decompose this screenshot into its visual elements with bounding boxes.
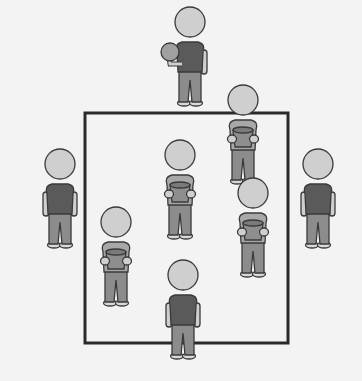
player-outside-right [301, 149, 335, 248]
shirt-icon [304, 184, 332, 214]
head-icon [45, 149, 75, 179]
pants-icon [179, 70, 201, 102]
pants-icon [169, 203, 191, 235]
player-inside-center [165, 140, 196, 239]
pants-icon [49, 212, 71, 244]
head-icon [101, 207, 131, 237]
bucket-rim-icon [233, 127, 253, 133]
player-inside-top-right [228, 85, 259, 184]
pants-icon [232, 148, 254, 180]
player-outside-left [43, 149, 77, 248]
head-icon [238, 178, 268, 208]
pants-icon [307, 212, 329, 244]
hand-icon [260, 228, 269, 236]
hand-icon [187, 190, 196, 198]
players-group [43, 7, 335, 359]
head-icon [303, 149, 333, 179]
hand-icon [250, 135, 259, 143]
head-icon [228, 85, 258, 115]
hand-icon [101, 257, 110, 265]
bucket-rim-icon [243, 220, 263, 226]
hand-icon [238, 228, 247, 236]
head-icon [175, 7, 205, 37]
player-inside-right [238, 178, 269, 277]
bucket-rim-icon [170, 182, 190, 188]
ball-icon [161, 43, 179, 61]
pants-icon [172, 323, 194, 355]
pants-icon [105, 270, 127, 302]
head-icon [165, 140, 195, 170]
shirt-icon [169, 295, 197, 325]
player-thrower [161, 7, 207, 106]
hand-icon [165, 190, 174, 198]
hand-icon [123, 257, 132, 265]
shirt-icon [176, 42, 204, 72]
head-icon [168, 260, 198, 290]
player-inside-left [101, 207, 132, 306]
bucket-rim-icon [106, 249, 126, 255]
shirt-icon [46, 184, 74, 214]
hand-icon [228, 135, 237, 143]
pants-icon [242, 241, 264, 273]
diagram-canvas [0, 0, 362, 381]
